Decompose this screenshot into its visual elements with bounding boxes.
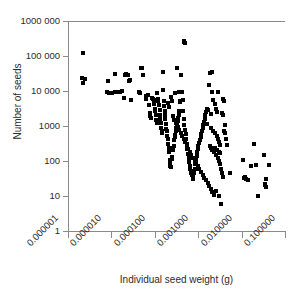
data-point — [225, 143, 229, 147]
data-point — [167, 150, 171, 154]
data-point — [167, 146, 171, 150]
data-point — [172, 118, 176, 122]
data-point — [216, 137, 220, 141]
data-point — [206, 108, 210, 112]
data-point — [180, 90, 184, 94]
data-point — [122, 96, 126, 100]
data-point — [152, 102, 156, 106]
data-point — [196, 147, 200, 151]
data-point — [192, 171, 196, 175]
data-point — [158, 108, 162, 112]
data-point — [264, 185, 268, 189]
data-point — [182, 39, 186, 43]
data-point — [182, 137, 186, 141]
data-point — [118, 90, 122, 94]
data-point — [191, 177, 195, 181]
data-point — [189, 169, 193, 173]
data-point — [193, 162, 197, 166]
data-point — [81, 81, 85, 85]
data-point — [209, 112, 213, 116]
data-point — [183, 41, 187, 45]
data-point — [263, 182, 267, 186]
data-point — [203, 117, 207, 121]
data-point — [183, 128, 187, 132]
data-point — [127, 79, 131, 83]
data-point — [170, 155, 174, 159]
data-point — [146, 93, 150, 97]
data-point — [170, 157, 174, 161]
data-point — [156, 99, 160, 103]
x-tick-mark — [285, 232, 286, 238]
data-point — [213, 131, 217, 135]
data-point — [155, 91, 159, 95]
data-point — [217, 194, 221, 198]
data-point — [173, 133, 177, 137]
y-tick-label: 100 — [44, 156, 60, 166]
data-point — [252, 142, 256, 146]
data-point — [166, 137, 170, 141]
data-point — [202, 176, 206, 180]
data-point — [162, 104, 166, 108]
data-point — [123, 73, 127, 77]
data-point — [254, 163, 258, 167]
data-point — [208, 71, 212, 75]
data-point — [191, 156, 195, 160]
data-point — [158, 117, 162, 121]
data-point — [179, 73, 183, 77]
data-point — [204, 110, 208, 114]
y-tick-mark — [63, 56, 69, 57]
data-point — [213, 102, 217, 106]
data-point — [140, 66, 144, 70]
data-point — [184, 132, 188, 136]
data-point — [176, 116, 180, 120]
data-point — [214, 107, 218, 111]
data-point — [196, 164, 200, 168]
data-point — [223, 123, 227, 127]
data-point — [217, 159, 221, 163]
data-point — [153, 107, 157, 111]
data-point — [207, 83, 211, 87]
data-point — [189, 153, 193, 157]
data-point — [199, 135, 203, 139]
data-point — [166, 101, 170, 105]
data-point — [167, 105, 171, 109]
data-point — [181, 109, 185, 113]
data-point — [214, 189, 218, 193]
data-point — [148, 114, 152, 118]
data-point — [186, 152, 190, 156]
data-point — [195, 150, 199, 154]
data-point — [177, 113, 181, 117]
data-point — [242, 176, 246, 180]
data-point — [210, 190, 214, 194]
data-point — [201, 123, 205, 127]
data-point — [160, 129, 164, 133]
data-point — [215, 110, 219, 114]
data-point — [141, 73, 145, 77]
data-point — [217, 140, 221, 144]
data-point — [203, 113, 207, 117]
data-point — [163, 113, 167, 117]
data-point — [168, 164, 172, 168]
data-point — [174, 126, 178, 130]
data-point — [216, 156, 220, 160]
data-point — [202, 120, 206, 124]
data-point — [228, 171, 232, 175]
data-point — [178, 99, 182, 103]
data-point — [180, 134, 184, 138]
data-points-layer — [0, 0, 297, 293]
data-point — [81, 51, 85, 55]
data-point — [152, 98, 156, 102]
y-tick-label: 10 — [49, 191, 60, 201]
data-point — [199, 170, 203, 174]
data-point — [171, 148, 175, 152]
data-point — [201, 126, 205, 130]
data-point — [223, 131, 227, 135]
data-point — [174, 129, 178, 133]
data-point — [185, 147, 189, 151]
data-point — [205, 107, 209, 111]
data-point — [157, 103, 161, 107]
data-point — [220, 111, 224, 115]
data-point — [222, 99, 226, 103]
x-tick-mark — [111, 232, 112, 238]
data-point — [185, 144, 189, 148]
